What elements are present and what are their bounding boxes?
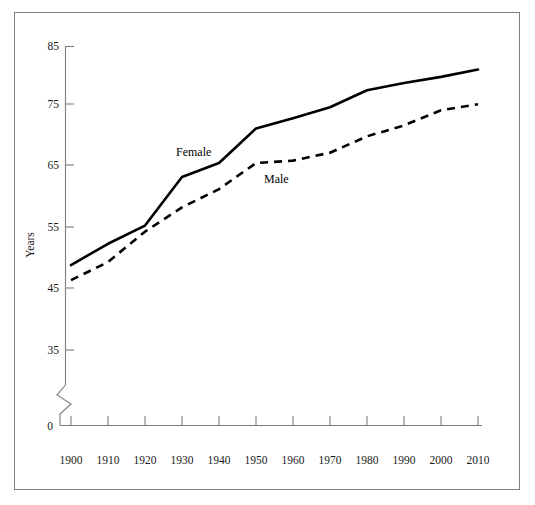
x-tick-label-1960: 1960 [282, 454, 305, 466]
x-tick-label-1940: 1940 [208, 454, 231, 466]
x-tick-label-1900: 1900 [60, 454, 83, 466]
x-axis-ticks [71, 416, 478, 426]
y-tick-label-75: 75 [48, 98, 60, 110]
life-expectancy-chart-figure: 85 75 65 55 45 35 0 Years 1900 1910 1920… [0, 0, 535, 505]
x-tick-label-2010: 2010 [467, 454, 490, 466]
series-line-female [71, 70, 478, 265]
y-tick-label-85: 85 [48, 40, 60, 52]
x-tick-label-1950: 1950 [245, 454, 268, 466]
y-tick-label-55: 55 [48, 221, 60, 233]
x-tick-label-1980: 1980 [356, 454, 379, 466]
y-axis-ticks [66, 47, 75, 351]
series-line-male [71, 104, 478, 280]
series-label-male: Male [264, 172, 289, 186]
x-tick-label-1920: 1920 [134, 454, 157, 466]
y-tick-label-45: 45 [48, 282, 60, 294]
series-label-female: Female [176, 145, 211, 159]
x-tick-label-2000: 2000 [430, 454, 453, 466]
x-tick-label-1910: 1910 [97, 454, 120, 466]
y-axis-title: Years [24, 232, 36, 258]
x-tick-label-1970: 1970 [319, 454, 342, 466]
y-axis-break-zigzag [57, 385, 71, 426]
x-tick-label-1930: 1930 [171, 454, 194, 466]
x-tick-label-1990: 1990 [393, 454, 416, 466]
y-tick-label-0: 0 [47, 420, 53, 432]
y-tick-label-65: 65 [48, 159, 60, 171]
chart-plot-area: 85 75 65 55 45 35 0 Years 1900 1910 1920… [0, 0, 535, 505]
y-tick-label-35: 35 [48, 344, 60, 356]
